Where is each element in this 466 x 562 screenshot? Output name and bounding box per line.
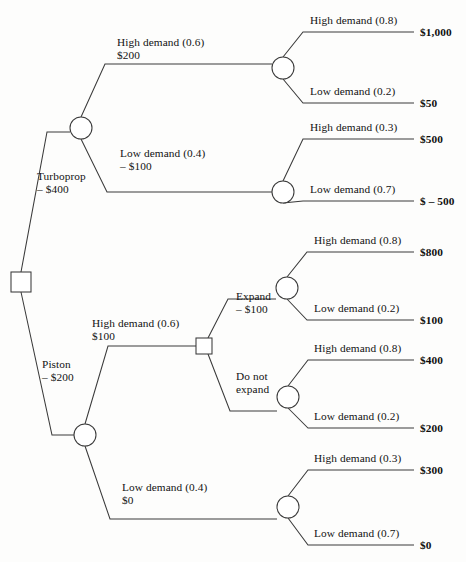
label-text-line2: expand xyxy=(236,383,269,396)
payoff-piston-low-high: $300 xyxy=(420,464,443,476)
expand-decision-node xyxy=(196,338,212,354)
payoff-noexpand-low: $200 xyxy=(420,422,443,434)
label-text-line2: $200 xyxy=(117,49,204,62)
payoff-expand-high: $800 xyxy=(420,246,443,258)
label-piston-low-high: High demand (0.3) xyxy=(314,452,401,465)
label-turboprop: Turboprop– $400 xyxy=(37,170,86,197)
turboprop-high-demand-chance-node xyxy=(272,57,294,79)
tree-line-artwork xyxy=(0,0,466,562)
payoff-piston-low-low: $0 xyxy=(420,539,432,551)
branch-noexpand-high xyxy=(288,360,414,386)
label-tp-high-low: Low demand (0.2) xyxy=(310,85,395,98)
label-text-line1: Low demand (0.4) xyxy=(122,481,207,494)
branch-root-to-turboprop xyxy=(21,132,70,272)
label-do-not-expand: Do notexpand xyxy=(236,370,269,397)
label-piston-low-low: Low demand (0.7) xyxy=(314,527,399,540)
label-tp-low-high: High demand (0.3) xyxy=(310,121,397,134)
label-piston-high-demand: High demand (0.6)$100 xyxy=(92,317,179,344)
label-text-line1: High demand (0.6) xyxy=(92,317,179,330)
do-not-expand-chance-node xyxy=(277,386,299,408)
turboprop-chance-node xyxy=(70,117,92,139)
label-text-line2: – $100 xyxy=(236,303,271,316)
payoff-tp-high-low: $50 xyxy=(420,97,437,109)
label-text-line1: Expand xyxy=(236,290,271,303)
decision-tree-diagram: High demand (0.6)$200 Low demand (0.4)– … xyxy=(0,0,466,562)
label-expand: Expand– $100 xyxy=(236,290,271,317)
label-tp-low-low: Low demand (0.7) xyxy=(310,183,395,196)
payoff-expand-low: $100 xyxy=(420,314,443,326)
label-piston: Piston– $200 xyxy=(42,358,74,385)
label-expand-low: Low demand (0.2) xyxy=(314,302,399,315)
expand-chance-node xyxy=(276,277,298,299)
piston-chance-node xyxy=(74,424,96,446)
label-text-line2: – $200 xyxy=(42,371,74,384)
branch-piston-low-high xyxy=(288,470,414,496)
label-noexpand-high: High demand (0.8) xyxy=(314,342,401,355)
payoff-noexpand-high: $400 xyxy=(420,354,443,366)
label-text-line2: – $100 xyxy=(120,160,205,173)
label-piston-low-demand: Low demand (0.4)$0 xyxy=(122,481,207,508)
label-text-line2: $100 xyxy=(92,330,179,343)
label-text-line1: Do not xyxy=(236,370,269,383)
label-turboprop-low-demand: Low demand (0.4)– $100 xyxy=(120,147,205,174)
label-noexpand-low: Low demand (0.2) xyxy=(314,410,399,423)
branch-piston-high-demand xyxy=(85,346,196,424)
branch-tp-low-low xyxy=(283,201,414,203)
label-tp-high-high: High demand (0.8) xyxy=(310,14,397,27)
branch-tp-high-high xyxy=(283,32,414,57)
label-expand-high: High demand (0.8) xyxy=(314,234,401,247)
label-text-line1: Turboprop xyxy=(37,170,86,183)
branch-expand-high xyxy=(287,252,414,277)
payoff-tp-low-low: $ – 500 xyxy=(420,195,455,207)
piston-low-demand-chance-node xyxy=(277,496,299,518)
branch-tp-low-high xyxy=(283,139,414,181)
label-text-line2: $0 xyxy=(122,494,207,507)
branch-turboprop-high-demand xyxy=(81,64,272,117)
root-decision-node xyxy=(11,272,31,292)
label-text-line1: High demand (0.6) xyxy=(117,36,204,49)
label-text-line1: Low demand (0.4) xyxy=(120,147,205,160)
payoff-tp-high-high: $1,000 xyxy=(420,26,452,38)
payoff-tp-low-high: $500 xyxy=(420,133,443,145)
turboprop-low-demand-chance-node xyxy=(272,181,294,203)
label-text-line1: Piston xyxy=(42,358,74,371)
label-turboprop-high-demand: High demand (0.6)$200 xyxy=(117,36,204,63)
label-text-line2: – $400 xyxy=(37,183,86,196)
